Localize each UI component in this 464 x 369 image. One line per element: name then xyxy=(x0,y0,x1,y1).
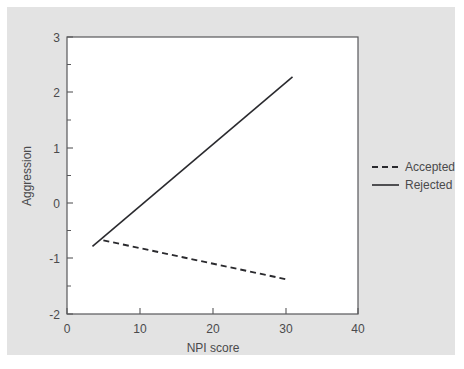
x-tick-label-0: 0 xyxy=(64,322,71,336)
y-tick-label-neg1: -1 xyxy=(49,252,60,266)
y-tick-label-neg2: -2 xyxy=(49,308,60,322)
x-tick-label-40: 40 xyxy=(351,322,365,336)
legend-label-accepted: Accepted xyxy=(405,160,455,174)
x-tick-label-30: 30 xyxy=(279,322,293,336)
plot-area-background xyxy=(67,37,358,314)
legend-label-rejected: Rejected xyxy=(405,178,452,192)
y-tick-label-2: 2 xyxy=(53,86,60,100)
x-tick-label-20: 20 xyxy=(206,322,220,336)
y-axis-title: Aggression xyxy=(20,146,34,206)
x-axis-title: NPI score xyxy=(187,341,240,355)
y-tick-label-3: 3 xyxy=(53,31,60,45)
legend: Accepted Rejected xyxy=(372,160,455,192)
y-tick-label-1: 1 xyxy=(53,142,60,156)
y-tick-label-0: 0 xyxy=(53,197,60,211)
line-chart: 3 2 1 0 -1 -2 0 10 20 30 40 NPI score Ag… xyxy=(0,0,464,369)
x-tick-label-10: 10 xyxy=(133,322,147,336)
